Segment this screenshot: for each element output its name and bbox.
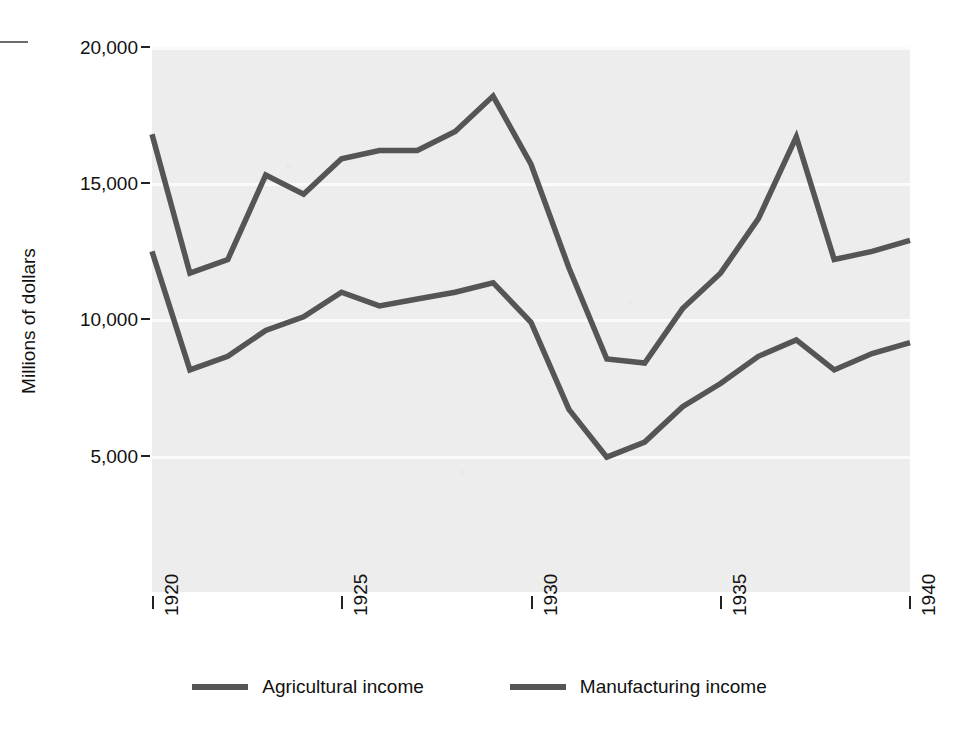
- x-tick-mark: [909, 596, 911, 609]
- x-tick-mark: [341, 596, 343, 609]
- x-tick-label-1940: 1940: [918, 574, 940, 616]
- legend-swatch-icon: [510, 684, 566, 690]
- x-tick-label-1920: 1920: [161, 574, 183, 616]
- y-tick-mark: [141, 46, 150, 48]
- series-line-manufacturing-income: [152, 251, 910, 457]
- y-tick-mark: [141, 182, 150, 184]
- legend-label: Manufacturing income: [580, 676, 767, 698]
- chart-legend: Agricultural income Manufacturing income: [0, 676, 959, 698]
- y-tick-label-5000: 5,000: [90, 447, 138, 466]
- y-axis: 20,000 15,000 10,000 5,000 Millions of d…: [0, 0, 152, 730]
- series-layer: [152, 47, 910, 592]
- x-tick-mark: [720, 596, 722, 609]
- x-tick-mark: [152, 596, 154, 609]
- plot-area: [152, 47, 910, 592]
- x-tick-label-1930: 1930: [540, 574, 562, 616]
- legend-item-manufacturing-income[interactable]: Manufacturing income: [510, 676, 767, 698]
- x-tick-mark: [531, 596, 533, 609]
- legend-item-agricultural-income[interactable]: Agricultural income: [192, 676, 424, 698]
- y-tick-label-15000: 15,000: [80, 174, 138, 193]
- x-tick-label-1925: 1925: [350, 574, 372, 616]
- legend-label: Agricultural income: [262, 676, 424, 698]
- x-tick-label-1935: 1935: [729, 574, 751, 616]
- y-tick-label-20000: 20,000: [80, 38, 138, 57]
- y-tick-label-10000: 10,000: [80, 310, 138, 329]
- legend-swatch-icon: [192, 684, 248, 690]
- y-axis-title: Millions of dollars: [18, 206, 40, 436]
- y-tick-mark: [141, 318, 150, 320]
- chart-figure: 20,000 15,000 10,000 5,000 Millions of d…: [0, 0, 959, 730]
- y-tick-mark: [141, 455, 150, 457]
